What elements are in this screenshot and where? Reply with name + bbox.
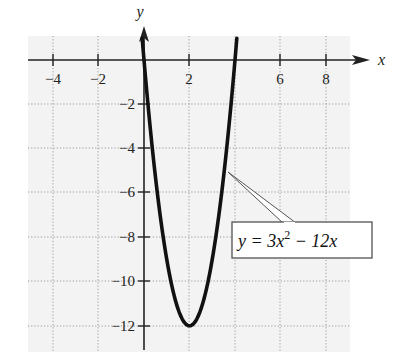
x-tick-label: −4 xyxy=(45,71,61,87)
y-tick-label: −2 xyxy=(119,96,135,112)
x-tick-label: −2 xyxy=(90,71,106,87)
parabola-chart: −4 −2 2 6 8 x −2 −4 −6 −8 −10 −12 y y = … xyxy=(0,0,403,363)
x-tick-label: 6 xyxy=(276,71,284,87)
y-tick-label: −8 xyxy=(119,229,135,245)
y-tick-label: −12 xyxy=(112,318,135,334)
x-tick-label: 8 xyxy=(322,71,330,87)
y-tick-label: −10 xyxy=(112,273,135,289)
x-axis-label: x xyxy=(377,51,385,68)
y-tick-label: −6 xyxy=(119,184,135,200)
y-tick-label: −4 xyxy=(119,140,135,156)
x-tick-label: 2 xyxy=(185,71,193,87)
y-axis-label: y xyxy=(134,3,144,21)
